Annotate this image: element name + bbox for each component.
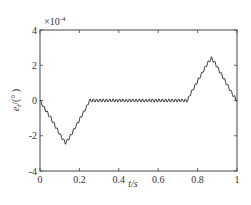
y-tick-label: 0: [32, 95, 37, 106]
x-tick-label: 1: [235, 174, 240, 185]
x-axis-label: t/s: [128, 178, 138, 189]
y-tick-label: -2: [29, 130, 37, 141]
y-axis-label: et/(° ): [10, 89, 23, 111]
x-tick-label: 0.4: [113, 174, 126, 185]
y-tick-label: 2: [32, 60, 37, 71]
x-tick-label: 0.2: [73, 174, 86, 185]
x-tick-label: 0.8: [191, 174, 204, 185]
y-tick-labels: 420-2-4: [29, 25, 37, 177]
x-tick-label: 0.6: [152, 174, 165, 185]
x-tick-labels: 00.20.40.60.81: [38, 174, 240, 185]
y-multiplier: ×10-4: [44, 15, 66, 27]
y-tick-label: -4: [29, 166, 37, 177]
y-tick-label: 4: [32, 25, 37, 36]
chart: 00.20.40.60.81 420-2-4 ×10-4 t/s et/(° ): [0, 0, 251, 205]
x-tick-label: 0: [38, 174, 43, 185]
